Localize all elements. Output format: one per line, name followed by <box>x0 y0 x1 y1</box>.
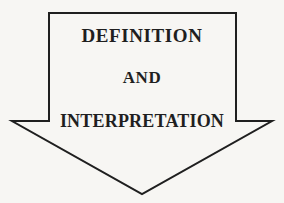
arrow-diagram-figure: DEFINITION AND INTERPRETATION <box>0 0 284 203</box>
down-arrow-outline-path <box>12 13 272 194</box>
down-arrow-icon <box>0 0 284 203</box>
